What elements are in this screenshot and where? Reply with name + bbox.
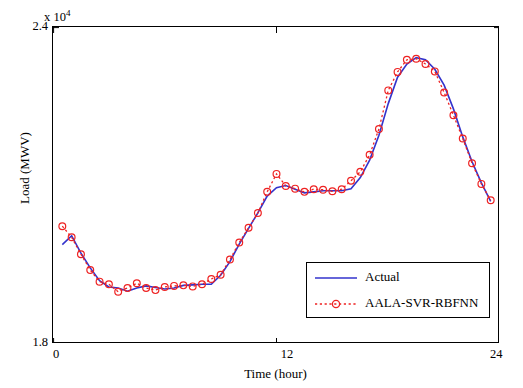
data-point <box>59 223 66 230</box>
x-axis-title: Time (hour) <box>52 366 499 382</box>
legend-sample-actual <box>313 265 359 291</box>
y-tick-label-bottom: 1.8 <box>10 336 48 348</box>
legend-item-model: AALA-SVR-RBFNN <box>307 291 489 317</box>
x-tick-label-12: 12 <box>275 347 299 362</box>
legend-item-actual: Actual <box>307 265 489 291</box>
legend-label-model: AALA-SVR-RBFNN <box>365 295 478 311</box>
series-line-1 <box>62 59 490 292</box>
y-axis-title: Load (MWV) <box>17 98 33 238</box>
data-point <box>115 288 122 295</box>
legend-label-actual: Actual <box>365 269 400 285</box>
y-tick-label-top: 2.4 <box>10 20 48 32</box>
chart-legend: Actual AALA-SVR-RBFNN <box>306 262 490 318</box>
legend-sample-model <box>313 291 359 317</box>
y-axis-multiplier-exponent: 4 <box>66 8 71 18</box>
data-point <box>133 280 140 287</box>
chart-figure: x 104 2.4 1.8 0 12 24 Time (hour) Load (… <box>0 0 523 388</box>
x-tick-label-0: 0 <box>44 347 68 362</box>
x-tick-label-24: 24 <box>490 347 516 362</box>
data-series-group <box>59 55 494 295</box>
